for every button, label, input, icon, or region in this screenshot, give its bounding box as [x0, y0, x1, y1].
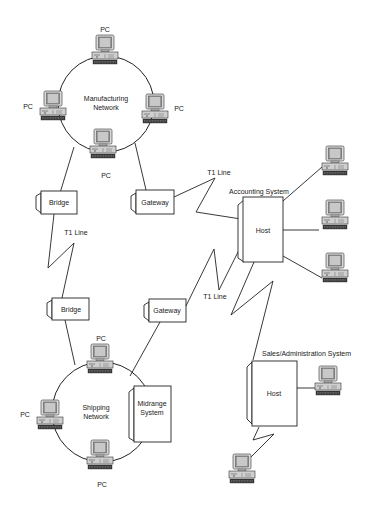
pc-icon[interactable]	[90, 129, 116, 158]
midrange-system[interactable]: Midrange System	[129, 386, 171, 442]
t1-label: T1 Line	[64, 229, 87, 236]
sales-system-title: Sales/Administration System	[262, 350, 351, 358]
shipping-label-2: Network	[83, 413, 109, 420]
bridge-top[interactable]: Bridge	[36, 191, 77, 214]
gateway-bottom[interactable]: Gateway	[144, 299, 186, 322]
pc-icon[interactable]	[92, 35, 118, 64]
pc-label: PC	[101, 172, 111, 179]
pc-icon[interactable]	[40, 91, 66, 120]
svg-text:Host: Host	[267, 390, 281, 397]
svg-text:Gateway: Gateway	[153, 307, 181, 315]
accounting-host[interactable]: Host	[238, 197, 283, 262]
t1-link-gateway-accounting	[174, 178, 241, 219]
network-diagram: Manufacturing Network PC PC PC PC Bridge…	[0, 0, 372, 527]
pc-icon[interactable]	[87, 440, 113, 469]
link-sales-pc2	[248, 427, 274, 460]
sales-host[interactable]: Host	[247, 361, 297, 426]
accounting-system-title: Accounting System	[229, 188, 289, 196]
link-bridge-shipping	[65, 320, 75, 365]
pc-icon[interactable]	[37, 400, 63, 429]
pc-icon[interactable]	[142, 94, 168, 123]
shipping-network: Shipping Network PC PC PC Midrange Syste…	[20, 335, 171, 488]
link-gateway-shipping	[130, 322, 160, 376]
manufacturing-label-2: Network	[93, 104, 119, 111]
pc-icon[interactable]	[322, 146, 348, 175]
t1-label: T1 Line	[207, 169, 230, 176]
manufacturing-label-1: Manufacturing	[84, 95, 128, 103]
svg-text:Bridge: Bridge	[61, 306, 81, 314]
pc-icon[interactable]	[315, 366, 341, 395]
shipping-label-1: Shipping	[82, 404, 109, 412]
pc-icon[interactable]	[322, 200, 348, 229]
svg-text:Midrange: Midrange	[137, 400, 166, 408]
pc-icon[interactable]	[322, 253, 348, 282]
svg-text:Gateway: Gateway	[141, 199, 169, 207]
pc-icon[interactable]	[229, 454, 255, 483]
t1-link-accounting-sales	[231, 262, 273, 360]
link-accounting-pc1	[283, 167, 322, 201]
link-accounting-pc3	[283, 256, 322, 278]
t1-label: T1 Line	[203, 293, 226, 300]
manufacturing-network: Manufacturing Network PC PC PC PC	[23, 26, 184, 179]
pc-label: PC	[96, 335, 106, 342]
bridge-bottom[interactable]: Bridge	[47, 298, 89, 320]
pc-label: PC	[97, 481, 107, 488]
pc-label: PC	[100, 26, 110, 33]
pc-icon[interactable]	[87, 344, 113, 373]
pc-label: PC	[174, 105, 184, 112]
link-manufacturing-bridge	[60, 147, 74, 193]
pc-label: PC	[23, 103, 33, 110]
link-manufacturing-gateway	[135, 143, 146, 190]
svg-text:Host: Host	[256, 227, 270, 234]
svg-text:System: System	[140, 409, 164, 417]
gateway-top[interactable]: Gateway	[131, 190, 174, 214]
t1-link-bridges	[48, 214, 74, 298]
svg-text:Bridge: Bridge	[49, 199, 69, 207]
pc-label: PC	[20, 411, 30, 418]
